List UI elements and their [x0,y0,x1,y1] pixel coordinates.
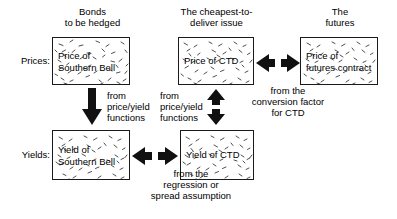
diagram-canvas: Bonds to be hedged The cheapest-to- deli… [0,0,397,219]
box-yield-southern-bell: Yield of Southern Bell [52,130,130,180]
arrow-leftright-yield-southern-bell-ctd [132,145,178,167]
box-label-yield-southern-bell: Yield of Southern Bell [58,144,115,167]
row-label-yields: Yields: [2,149,50,160]
box-label-price-futures-contract: Price of futures contract [306,50,371,73]
box-label-price-ctd: Price of CTD [184,55,238,67]
column-heading-left: Bonds to be hedged [45,6,140,28]
row-label-prices: Prices: [2,55,50,66]
arrow-leftright-ctd-futures [256,52,300,74]
box-price-futures-contract: Price of futures contract [300,37,378,85]
column-heading-middle: The cheapest-to- deliver issue [168,6,265,28]
box-price-southern-bell: Price of Southern Bell [52,37,130,85]
box-price-ctd: Price of CTD [178,37,254,85]
box-label-yield-ctd: Yield of CTD [186,149,240,161]
arrow-down-price-to-yield-southern-bell [80,88,104,126]
column-heading-right: The futures [300,6,380,28]
caption-bottom-horizontal: from the regression or spread assumption [126,168,256,201]
caption-middle-vertical: from price/yield functions [160,90,218,123]
caption-top-horizontal: from the conversion factor for CTD [228,85,348,118]
box-label-price-southern-bell: Price of Southern Bell [58,50,115,73]
